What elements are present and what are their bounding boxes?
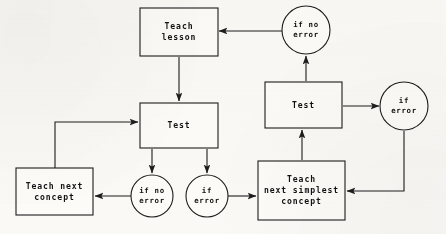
node-label-teach-next-simplest-line-1: next simplest: [264, 185, 339, 195]
nodes-layer: Teachlessonif noerrorTestTestiferrorTeac…: [16, 6, 428, 220]
node-label-teach-next-concept-line-0: Teach next: [26, 181, 84, 191]
edge-teachnextconcept-to-testleft: [55, 122, 138, 168]
node-test-left[interactable]: Test: [140, 103, 218, 148]
node-label-if-error-bottom-line-0: if: [202, 186, 212, 195]
flowchart-svg: Teachlessonif noerrorTestTestiferrorTeac…: [0, 0, 446, 234]
node-label-if-no-error-top-line-0: if no: [293, 20, 319, 29]
node-if-no-error-top[interactable]: if noerror: [282, 6, 330, 54]
edge-iferrorright-to-teachnextsimplest: [347, 131, 404, 191]
edges-layer: [55, 31, 404, 196]
node-label-if-error-right-line-1: error: [391, 106, 417, 115]
node-teach-next-concept[interactable]: Teach nextconcept: [16, 168, 93, 215]
node-label-if-no-error-top-line-1: error: [293, 30, 319, 39]
node-label-test-right-line-0: Test: [292, 100, 315, 110]
node-label-teach-lesson-line-0: Teach: [165, 21, 194, 31]
node-if-no-error-bottom[interactable]: if noerror: [131, 175, 173, 217]
node-label-teach-next-simplest-line-0: Teach: [287, 174, 316, 184]
node-test-right[interactable]: Test: [265, 82, 342, 128]
node-if-error-bottom[interactable]: iferror: [186, 175, 228, 217]
node-label-if-error-right-line-0: if: [399, 96, 409, 105]
node-label-teach-next-concept-line-1: concept: [34, 192, 74, 202]
node-label-if-error-bottom-line-1: error: [194, 196, 220, 205]
node-label-teach-next-simplest-line-2: concept: [281, 196, 321, 206]
node-if-error-right[interactable]: iferror: [380, 82, 428, 130]
node-label-if-no-error-bottom-line-0: if no: [139, 186, 165, 195]
node-label-teach-lesson-line-1: lesson: [162, 32, 197, 42]
node-teach-next-simplest[interactable]: Teachnext simplestconcept: [258, 161, 345, 220]
flowchart-canvas: Teachlessonif noerrorTestTestiferrorTeac…: [0, 0, 446, 234]
node-teach-lesson[interactable]: Teachlesson: [140, 8, 218, 56]
node-label-test-left-line-0: Test: [167, 120, 190, 130]
node-label-if-no-error-bottom-line-1: error: [139, 196, 165, 205]
